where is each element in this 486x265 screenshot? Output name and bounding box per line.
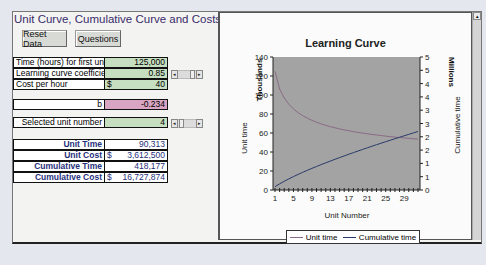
value: -0.234 [141,100,165,109]
value: 418,177 [134,162,165,171]
scroll-track[interactable] [178,70,196,79]
learning-coefficient-scrollbar[interactable]: ◂ ▸ [171,69,203,79]
result-value: $16,727,874 [105,172,168,183]
result-value: $3,612,500 [105,150,168,161]
first-unit-time-field[interactable]: 125,000 [105,57,168,68]
result-label: Cumulative Time [13,161,105,172]
result-value: 418,177 [105,161,168,172]
value: 3,612,500 [127,151,165,160]
learning-coefficient-field[interactable]: 0.85 [105,68,168,79]
legend-line-icon [290,237,303,238]
result-label: Cumulative Cost [13,172,105,183]
reset-data-button[interactable]: Reset Data [22,30,67,47]
result-label: Unit Time [13,139,105,150]
legend-cumulative-time: Cumulative time [343,233,416,242]
chart-vertical-scrollbar[interactable]: ▴ [472,12,481,240]
b-row: b -0.234 [13,99,168,110]
scroll-left-arrow-icon[interactable]: ◂ [171,119,178,128]
selected-unit-label: Selected unit number [13,117,105,128]
selected-unit-row: Selected unit number 4 [13,117,168,128]
scroll-up-arrow-icon[interactable]: ▴ [473,12,481,20]
result-row-cumulative-cost: Cumulative Cost $16,727,874 [13,172,168,183]
scroll-thumb[interactable] [190,70,195,79]
value: 16,727,874 [122,173,165,182]
input-label: Time (hours) for first unit [13,57,105,68]
scroll-left-arrow-icon[interactable]: ◂ [171,70,178,79]
prefix: $ [107,80,112,89]
prefix: $ [107,173,112,182]
result-row-cumulative-time: Cumulative Time 418,177 [13,161,168,172]
legend-label: Cumulative time [359,233,416,242]
value: 90,313 [139,140,165,149]
questions-button[interactable]: Questions [75,30,121,47]
selected-unit-scrollbar[interactable]: ◂ ▸ [171,118,203,128]
value: 40 [156,80,165,89]
b-label: b [13,99,105,110]
value: 4 [160,118,165,127]
scroll-right-arrow-icon[interactable]: ▸ [196,70,203,79]
legend-label: Unit time [306,233,338,242]
sheet-title: Unit Curve, Cumulative Curve and Costs [14,13,221,25]
input-label: Cost per hour [13,79,105,90]
legend-unit-time: Unit time [290,233,338,242]
input-row-cost-per-hour: Cost per hour $40 [13,79,168,90]
result-row-unit-time: Unit Time 90,313 [13,139,168,150]
cost-per-hour-field[interactable]: $40 [105,79,168,90]
chart-title: Learning Curve [220,37,471,49]
chart-legend: Unit time Cumulative time [286,230,420,244]
scroll-right-arrow-icon[interactable]: ▸ [196,119,203,128]
input-row-first-unit-time: Time (hours) for first unit 125,000 [13,57,168,68]
learning-curve-chart[interactable]: Learning Curve [218,12,472,240]
scroll-track[interactable] [178,119,196,128]
input-label: Learning curve coefficient [13,68,105,79]
legend-line-icon [343,237,356,238]
value: 125,000 [134,58,165,67]
input-row-learning-coefficient: Learning curve coefficient 0.85 [13,68,168,79]
value: 0.85 [148,69,165,78]
selected-unit-field[interactable]: 4 [105,117,168,128]
result-label: Unit Cost [13,150,105,161]
b-value: -0.234 [105,99,168,110]
prefix: $ [107,151,112,160]
result-value: 90,313 [105,139,168,150]
result-row-unit-cost: Unit Cost $3,612,500 [13,150,168,161]
scroll-thumb[interactable] [179,119,184,128]
